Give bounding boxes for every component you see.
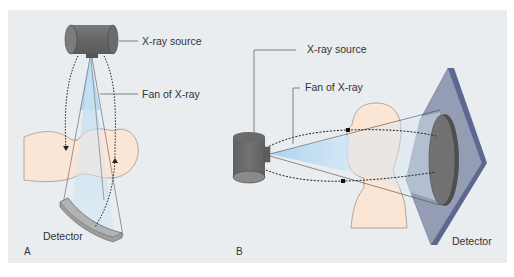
xray-source-a: [65, 25, 118, 58]
detector-disc-b: [429, 115, 455, 205]
label-xray-source-a: X-ray source: [142, 35, 202, 47]
marker-top-b: [346, 128, 350, 132]
marker-bottom-b: [341, 179, 345, 183]
xray-source-b: [233, 132, 270, 183]
label-fan-b: Fan of X-ray: [305, 81, 364, 93]
label-detector-a: Detector: [43, 230, 83, 242]
xray-tomography-figure: X-ray source Fan of X-ray Detector A: [0, 0, 514, 277]
label-detector-b: Detector: [452, 235, 492, 247]
label-fan-a: Fan of X-ray: [142, 88, 201, 100]
panel-label-b: B: [236, 246, 243, 257]
label-xray-source-b: X-ray source: [307, 43, 367, 55]
panel-label-a: A: [24, 246, 31, 257]
